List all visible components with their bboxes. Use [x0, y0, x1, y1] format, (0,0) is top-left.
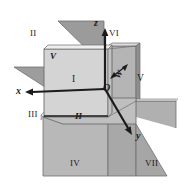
diagram-canvas [0, 0, 186, 184]
octant-label-1: I [72, 75, 75, 85]
axis-label-z: z [94, 18, 98, 28]
octant-label-2: II [30, 29, 36, 38]
coordinate-planes-diagram: x y z O V H W I II III IV V VI VII [0, 0, 186, 184]
octant-label-5: V [137, 74, 144, 84]
octant-label-6: VI [109, 29, 119, 38]
octant-label-4: IV [70, 159, 80, 168]
octant-label-3: III [28, 110, 38, 119]
origin-label: O [103, 83, 110, 93]
axis-label-x: x [16, 86, 21, 96]
plane-label-v: V [50, 52, 56, 61]
octant-label-7: VII [145, 159, 158, 168]
plane-label-h: H [75, 112, 82, 121]
axis-label-y: y [136, 131, 140, 141]
w-plane-lower-wedge [108, 117, 176, 176]
